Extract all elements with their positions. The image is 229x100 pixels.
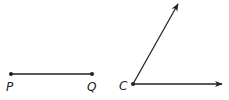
geometry-diagram: P Q C [0, 0, 229, 100]
point-p [9, 72, 13, 76]
point-q [90, 72, 94, 76]
angle-c: C [119, 4, 222, 93]
label-c: C [119, 79, 128, 93]
segment-pq: P Q [6, 72, 96, 94]
upper-ray [133, 4, 178, 84]
label-p: P [6, 80, 14, 94]
label-q: Q [87, 80, 96, 94]
vertex-c [131, 82, 135, 86]
